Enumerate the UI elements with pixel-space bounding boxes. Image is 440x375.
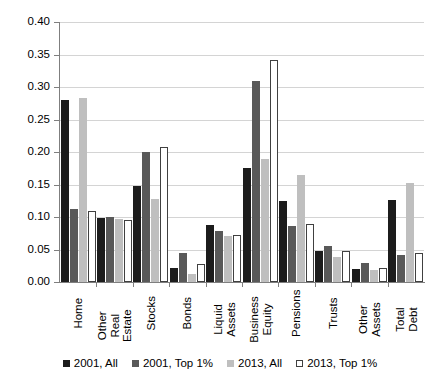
bar-group [133,22,169,282]
bar-group [278,22,314,282]
x-axis-category-text: Bonds [181,297,194,330]
bar [279,201,287,282]
bar [224,236,232,282]
x-tick-mark [315,282,316,287]
legend-item[interactable]: 2001, Top 1% [132,357,213,369]
x-tick-mark [388,282,389,287]
x-axis-category-label: Home [61,289,95,347]
bar [342,251,350,282]
x-tick-mark [169,282,170,287]
bar-chart: 0.000.050.100.150.200.250.300.350.40 Hom… [0,0,440,375]
x-tick-mark [96,282,97,287]
x-axis-category-label: Other Assets [352,289,386,347]
legend-item[interactable]: 2013, Top 1% [296,357,377,369]
x-tick-mark [278,282,279,287]
x-axis-category-label: Stocks [134,289,168,347]
x-tick-mark [351,282,352,287]
legend-swatch-icon [227,360,234,367]
x-axis-category-text: Liquid Assets [211,302,236,337]
legend-label: 2001, Top 1% [143,357,213,369]
y-tick-label: 0.20 [8,146,50,158]
x-tick-mark [133,282,134,287]
bar [306,224,314,283]
bar [179,253,187,282]
bar [252,81,260,283]
bar [243,168,251,282]
bar [206,225,214,282]
x-tick-mark [206,282,207,287]
legend-label: 2013, Top 1% [307,357,377,369]
x-axis-category-text: Other Assets [357,302,382,337]
bar [352,269,360,282]
bar [288,226,296,282]
x-axis-category-label: Other Real Estate [98,289,132,347]
bar [388,200,396,282]
bar [415,253,423,282]
legend-swatch-icon [132,360,139,367]
y-tick-label: 0.10 [8,211,50,223]
bar-group [242,22,278,282]
bar [160,147,168,282]
bar [142,152,150,282]
bar [233,235,241,282]
legend-swatch-icon [296,360,303,367]
x-axis-category-label: Liquid Assets [207,289,241,347]
bar-group [315,22,351,282]
bar-group [388,22,424,282]
bar [215,231,223,282]
bar [270,60,278,282]
legend-swatch-icon [63,360,70,367]
bar [315,251,323,282]
y-tick-label: 0.05 [8,244,50,256]
bar [261,159,269,282]
x-axis-category-text: Home [72,298,85,329]
y-tick-label: 0.40 [8,16,50,28]
bar [406,183,414,282]
x-axis-category-text: Other Real Estate [96,309,134,342]
legend-label: 2001, All [74,357,118,369]
bar [88,211,96,283]
bar-group [351,22,387,282]
bar-group [60,22,96,282]
x-axis-category-label: Total Debt [389,289,423,347]
y-tick-label: 0.25 [8,114,50,126]
bar [361,263,369,283]
bar [79,98,87,282]
bar [188,274,196,282]
bar [133,186,141,282]
y-tick-label: 0.30 [8,81,50,93]
bar [70,209,78,282]
x-axis-category-text: Total Debt [393,307,418,331]
legend-item[interactable]: 2001, All [63,357,118,369]
bar [324,246,332,282]
y-tick-label: 0.00 [8,276,50,288]
bar [379,268,387,282]
bar [397,255,405,282]
x-axis-category-text: Trusts [327,297,340,329]
bar [151,199,159,282]
legend-label: 2013, All [238,357,282,369]
bar-group [96,22,132,282]
legend-item[interactable]: 2013, All [227,357,282,369]
plot-area [60,22,424,282]
bar-group [169,22,205,282]
bar [170,268,178,282]
y-axis-line [59,22,60,283]
bar [106,217,114,282]
x-tick-mark [242,282,243,287]
x-axis-category-label: Pensions [280,289,314,347]
bar [115,219,123,282]
bar [333,257,341,282]
bar [370,270,378,282]
x-axis-category-label: Trusts [316,289,350,347]
bar [297,175,305,282]
y-tick-label: 0.35 [8,49,50,61]
bar [197,264,205,282]
x-axis-category-text: Stocks [145,296,158,331]
bar [97,218,105,282]
chart-legend: 2001, All2001, Top 1%2013, All2013, Top … [0,357,440,369]
x-axis-category-text: Pensions [290,290,303,337]
bar [61,100,69,282]
bar [124,220,132,282]
x-axis-category-label: Bonds [170,289,204,347]
